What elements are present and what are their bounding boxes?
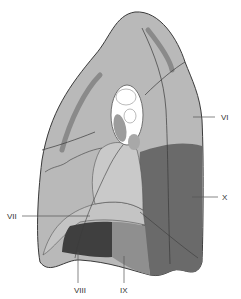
label-viii: VIII: [74, 286, 86, 295]
label-x: X: [222, 193, 228, 202]
segment-light-medial: [92, 143, 143, 211]
hilum-vessel-4: [128, 134, 140, 150]
segment-ix: [112, 222, 150, 275]
segment-viii: [62, 222, 112, 258]
label-vi: VI: [221, 113, 229, 122]
lung-segments-diagram: VI VII VIII IX X: [0, 0, 241, 299]
label-ix: IX: [120, 286, 128, 295]
hilum-vessel-2: [124, 109, 136, 123]
hilum-vessel-1: [116, 89, 136, 105]
label-vii: VII: [7, 212, 17, 221]
segment-x: [139, 144, 202, 276]
